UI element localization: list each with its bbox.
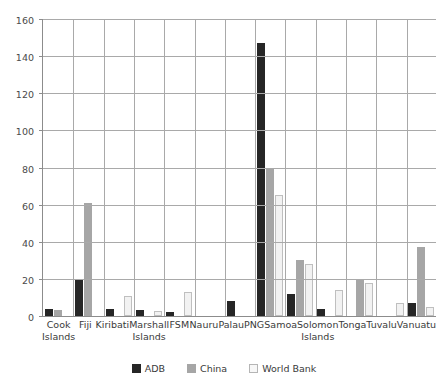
y-axis-tick-label: 160	[16, 15, 34, 26]
bar	[136, 310, 144, 316]
gridline-vertical	[134, 20, 135, 316]
y-axis-tick-label: 40	[22, 237, 34, 248]
y-axis-tick-label: 80	[22, 163, 34, 174]
y-axis: 020406080100120140160	[0, 20, 38, 317]
bar	[317, 309, 325, 316]
bar	[275, 195, 283, 316]
bar	[396, 303, 404, 316]
y-axis-tick-mark	[39, 279, 43, 280]
bar	[184, 292, 192, 316]
x-axis-tick-label: SolomonIslands	[297, 319, 338, 342]
bar	[356, 279, 364, 316]
legend-label: World Bank	[262, 363, 316, 374]
bar	[106, 309, 114, 316]
bar	[408, 303, 416, 316]
bar	[75, 279, 83, 316]
legend-swatch-icon	[249, 364, 258, 373]
plot-area	[42, 20, 436, 317]
bar	[54, 310, 62, 316]
legend-item-china[interactable]: China	[187, 363, 227, 374]
gridline-vertical	[316, 20, 317, 316]
bar	[227, 301, 235, 316]
bar	[335, 290, 343, 316]
y-axis-tick-label: 100	[16, 126, 34, 137]
gridline-vertical	[407, 20, 408, 316]
bar	[257, 43, 265, 316]
gridline-vertical	[376, 20, 377, 316]
gridline-vertical	[285, 20, 286, 316]
x-axis-tick-label: Vanuatu	[397, 319, 436, 342]
y-axis-tick-mark	[39, 56, 43, 57]
x-axis-labels: CookIslandsFijiKiribatiMarshallIslandsFS…	[42, 319, 436, 342]
x-axis-tick-label: PNG	[244, 319, 264, 342]
legend-swatch-icon	[132, 364, 141, 373]
bar	[45, 309, 53, 316]
y-axis-tick-mark	[39, 205, 43, 206]
gridline-vertical	[104, 20, 105, 316]
y-axis-tick-label: 20	[22, 274, 34, 285]
y-axis-tick-label: 120	[16, 89, 34, 100]
legend-label: China	[200, 363, 227, 374]
bar	[365, 283, 373, 316]
bar	[166, 312, 174, 316]
legend-label: ADB	[145, 363, 165, 374]
bar-chart: 020406080100120140160 CookIslandsFijiKir…	[0, 0, 448, 388]
x-axis-tick-label: Fiji	[75, 319, 95, 342]
x-axis-tick-label: Tuvalu	[366, 319, 397, 342]
bar	[287, 294, 295, 316]
y-axis-tick-mark	[39, 93, 43, 94]
x-axis-tick-label: Nauru	[189, 319, 218, 342]
gridline-vertical	[225, 20, 226, 316]
x-axis-tick-label: Samoa	[264, 319, 297, 342]
y-axis-tick-mark	[39, 316, 43, 317]
y-axis-tick-mark	[39, 19, 43, 20]
bar	[154, 311, 162, 316]
legend-item-wb[interactable]: World Bank	[249, 363, 316, 374]
gridline-vertical	[164, 20, 165, 316]
gridline-vertical	[73, 20, 74, 316]
x-axis-tick-label: CookIslands	[42, 319, 75, 342]
legend-swatch-icon	[187, 364, 196, 373]
gridline-vertical	[255, 20, 256, 316]
y-axis-tick-mark	[39, 242, 43, 243]
x-axis-tick-label: Palau	[218, 319, 244, 342]
x-axis-tick-label: FSM	[169, 319, 189, 342]
bar	[426, 307, 434, 316]
gridline-vertical	[195, 20, 196, 316]
y-axis-tick-label: 140	[16, 52, 34, 63]
bar	[124, 296, 132, 316]
x-axis-tick-label: MarshallIslands	[129, 319, 169, 342]
x-axis-tick-label: Kiribati	[96, 319, 130, 342]
y-axis-tick-mark	[39, 130, 43, 131]
y-axis-tick-label: 0	[28, 312, 34, 323]
x-axis-tick-label: Tonga	[338, 319, 366, 342]
bar	[417, 247, 425, 316]
gridline-vertical	[346, 20, 347, 316]
y-axis-tick-label: 60	[22, 200, 34, 211]
bar	[84, 203, 92, 316]
bar	[305, 264, 313, 316]
y-axis-tick-mark	[39, 168, 43, 169]
chart-legend: ADBChinaWorld Bank	[0, 363, 448, 374]
legend-item-adb[interactable]: ADB	[132, 363, 165, 374]
bar	[296, 260, 304, 316]
